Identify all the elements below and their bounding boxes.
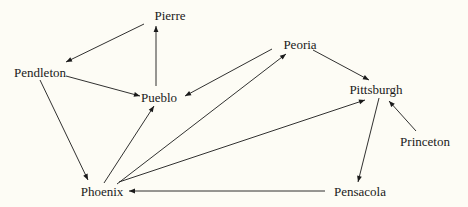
node-pendleton: Pendleton	[14, 66, 66, 79]
edge-phoenix-pueblo	[104, 106, 154, 183]
edge-phoenix-pittsburgh	[119, 100, 365, 182]
node-pierre: Pierre	[154, 9, 185, 22]
node-peoria: Peoria	[283, 38, 316, 51]
edge-pendleton-phoenix	[40, 80, 88, 180]
edge-pittsburgh-pensacola	[358, 98, 379, 182]
graph-canvas: Pierre Pendleton Pueblo Peoria Pittsburg…	[0, 0, 468, 207]
node-princeton: Princeton	[400, 135, 450, 148]
edge-princeton-pittsburgh	[389, 101, 416, 131]
edge-peoria-pittsburgh	[313, 50, 369, 80]
node-pensacola: Pensacola	[334, 185, 386, 198]
edge-pendleton-pueblo	[66, 76, 140, 96]
edge-pierre-pendleton	[66, 24, 144, 62]
node-phoenix: Phoenix	[81, 185, 124, 198]
edge-phoenix-peoria	[117, 54, 286, 184]
node-pueblo: Pueblo	[141, 91, 177, 104]
node-pittsburgh: Pittsburgh	[349, 83, 402, 96]
edge-peoria-pueblo	[185, 49, 272, 96]
edges-layer	[0, 0, 468, 207]
